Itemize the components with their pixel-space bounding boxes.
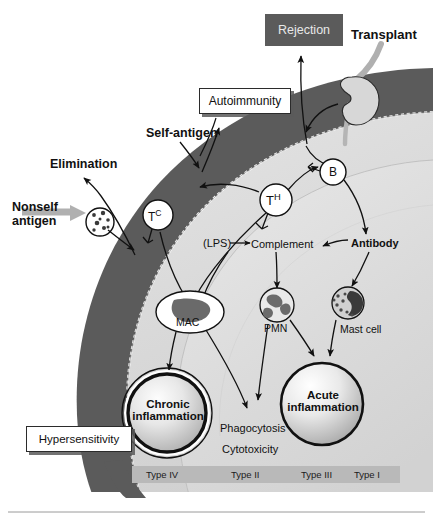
chronic-line2: inflammation [130, 410, 206, 422]
hypersensitivity-callout[interactable]: Hypersensitivity [26, 426, 132, 452]
phagocytosis-label: Phagocytosis [220, 422, 285, 435]
type-bar-item-1: Type II [231, 469, 260, 480]
th-cell-name: T [266, 193, 274, 208]
acute-line2: inflammation [285, 401, 361, 413]
acute-inflammation-label: Acute inflammation [285, 389, 361, 413]
hypersensitivity-label: Hypersensitivity [39, 433, 120, 445]
pmn-label: PMN [264, 322, 287, 334]
tc-cell-label: TC [148, 208, 162, 224]
autoimmunity-callout[interactable]: Autoimmunity [199, 88, 291, 114]
acute-line1: Acute [285, 389, 361, 401]
immunology-diagram-figure: Rejection Autoimmunity Hypersensitivity … [0, 0, 433, 521]
complement-label: Complement [251, 238, 313, 251]
b-cell-label: B [329, 165, 337, 179]
nonself-antigen-line1: Nonself [12, 200, 58, 214]
th-cell-superscript: H [274, 192, 281, 202]
rejection-callout[interactable]: Rejection [265, 14, 343, 46]
mast-cell-group [332, 287, 364, 319]
chronic-inflammation-label: Chronic inflammation [130, 398, 206, 422]
nonself-antigen-line2: antigen [12, 214, 58, 228]
type-bar-item-0: Type IV [146, 469, 178, 480]
elimination-label: Elimination [50, 157, 117, 171]
transplant-label: Transplant [351, 28, 417, 43]
th-cell-label: TH [266, 192, 281, 208]
autoimmunity-label: Autoimmunity [209, 94, 282, 108]
nonself-gray-arrowhead [70, 205, 86, 221]
mac-label: MAC [176, 316, 199, 328]
pmn-cell-group [260, 288, 294, 322]
self-antigen-label: Self-antigen [146, 126, 218, 140]
lps-label: (LPS) [203, 237, 231, 250]
type-bar-item-3: Type I [354, 469, 380, 480]
tc-cell-superscript: C [155, 208, 161, 218]
nonself-antigen-label: Nonself antigen [12, 200, 58, 229]
rejection-label: Rejection [278, 23, 330, 37]
type-bar-item-2: Type III [301, 469, 332, 480]
chronic-line1: Chronic [130, 398, 206, 410]
figure-bottom-mask [0, 492, 433, 521]
mast-cell-label: Mast cell [340, 323, 381, 335]
cytotoxicity-label: Cytotoxicity [222, 443, 278, 456]
antibody-label: Antibody [351, 237, 399, 250]
